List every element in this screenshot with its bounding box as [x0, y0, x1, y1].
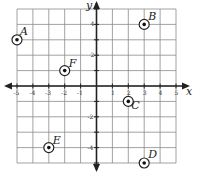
- x-tick-label: -1: [77, 89, 83, 96]
- x-axis-label: x: [186, 85, 193, 98]
- x-tick-label: 4: [159, 89, 163, 96]
- point-dot-icon: [127, 100, 131, 104]
- point-d: D: [139, 148, 157, 168]
- point-a: A: [12, 25, 28, 45]
- x-tick-label: -5: [14, 89, 20, 96]
- y-axis-label: y: [85, 0, 93, 12]
- point-label: C: [131, 99, 140, 112]
- y-tick-label: 4: [91, 20, 95, 27]
- point-label: B: [147, 10, 156, 23]
- x-tick-label: -3: [45, 89, 51, 96]
- point-e: E: [44, 134, 61, 153]
- point-dot-icon: [142, 161, 146, 165]
- point-label: A: [19, 25, 28, 38]
- x-tick-label: -4: [29, 89, 35, 96]
- point-f: F: [60, 57, 77, 76]
- y-axis-down-arrow-icon: [93, 164, 100, 172]
- y-axis-up-arrow-icon: [93, 1, 100, 9]
- y-tick-label: 2: [91, 51, 95, 58]
- x-tick-label: 5: [175, 89, 179, 96]
- point-label: F: [68, 57, 77, 70]
- point-b: B: [139, 10, 156, 29]
- axes: x y: [4, 0, 193, 172]
- y-tick-label: -2: [88, 113, 94, 120]
- x-tick-label: 2: [127, 89, 131, 96]
- x-tick-label: -2: [61, 89, 67, 96]
- y-tick-label: -4: [88, 144, 94, 151]
- point-c: C: [123, 96, 140, 112]
- point-label: E: [52, 134, 61, 147]
- x-axis-left-arrow-icon: [4, 83, 12, 90]
- x-tick-label: 1: [111, 89, 115, 96]
- point-dot-icon: [47, 146, 51, 150]
- point-dot-icon: [63, 69, 67, 73]
- point-label: D: [147, 148, 157, 161]
- point-dot-icon: [15, 38, 19, 42]
- coordinate-plane: x y -5-4-3-2-11234542-2-4 ABCDEF: [0, 0, 200, 187]
- point-dot-icon: [142, 23, 146, 27]
- x-tick-label: 3: [143, 89, 147, 96]
